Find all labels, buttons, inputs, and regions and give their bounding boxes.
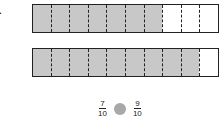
fraction-bar-2 xyxy=(32,48,219,77)
left-fraction: 7 10 xyxy=(98,99,107,118)
unshaded-segment xyxy=(162,5,181,32)
right-fraction: 9 10 xyxy=(133,99,142,118)
problem-number: 4. xyxy=(0,6,2,16)
shaded-segment xyxy=(125,5,144,32)
fraction-comparison: 7 10 9 10 xyxy=(98,99,142,118)
fraction-bar-1 xyxy=(32,4,219,33)
shaded-segment xyxy=(144,5,163,32)
shaded-segment xyxy=(88,5,107,32)
shaded-segment xyxy=(33,5,51,32)
shaded-segment xyxy=(69,5,88,32)
shaded-segment xyxy=(51,49,70,76)
unshaded-segment xyxy=(199,5,218,32)
unshaded-segment xyxy=(181,5,200,32)
comparison-circle[interactable] xyxy=(114,103,126,115)
right-numerator: 9 xyxy=(134,99,140,109)
shaded-segment xyxy=(181,49,200,76)
shaded-segment xyxy=(162,49,181,76)
shaded-segment xyxy=(106,49,125,76)
shaded-segment xyxy=(144,49,163,76)
shaded-segment xyxy=(88,49,107,76)
unshaded-segment xyxy=(199,49,218,76)
left-numerator: 7 xyxy=(99,99,105,109)
right-denominator: 10 xyxy=(133,109,142,118)
shaded-segment xyxy=(51,5,70,32)
shaded-segment xyxy=(33,49,51,76)
left-denominator: 10 xyxy=(98,109,107,118)
shaded-segment xyxy=(125,49,144,76)
shaded-segment xyxy=(69,49,88,76)
shaded-segment xyxy=(106,5,125,32)
